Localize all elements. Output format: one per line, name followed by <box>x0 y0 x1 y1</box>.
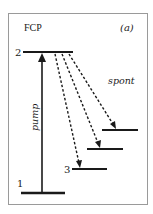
energy-level-diagram: FCP (a) 2 1 3 pump spont <box>0 0 153 214</box>
level-1-label: 1 <box>17 178 23 189</box>
spont-label: spont <box>108 75 135 86</box>
diagram-canvas: FCP (a) 2 1 3 pump spont <box>0 0 153 214</box>
diagram-title: FCP <box>24 22 42 33</box>
pump-label: pump <box>29 104 40 131</box>
level-3-label: 3 <box>64 164 70 175</box>
level-2-label: 2 <box>15 47 21 58</box>
panel-label: (a) <box>120 22 134 33</box>
